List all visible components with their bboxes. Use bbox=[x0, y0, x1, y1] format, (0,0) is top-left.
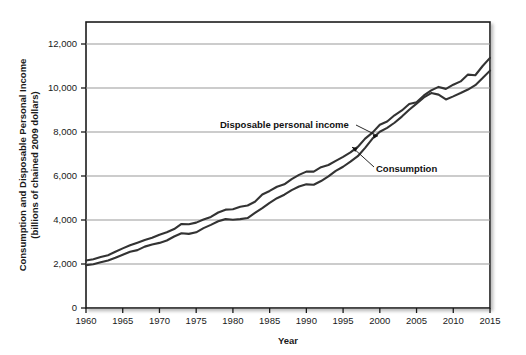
y-axis-title: Consumption and Disposable Personal Inco… bbox=[17, 59, 40, 272]
y-tick-label: 0 bbox=[72, 302, 77, 313]
y-tick-label: 10,000 bbox=[48, 82, 77, 93]
y-tick-label: 8,000 bbox=[53, 126, 77, 137]
line-chart: 02,0004,0006,0008,00010,00012,000 196019… bbox=[0, 0, 526, 355]
chart-figure: 02,0004,0006,0008,00010,00012,000 196019… bbox=[0, 0, 526, 355]
x-tick-label: 1975 bbox=[186, 315, 207, 326]
x-tick-label: 1960 bbox=[75, 315, 96, 326]
series-label-consumption: Consumption bbox=[376, 163, 437, 174]
y-tick-label: 12,000 bbox=[48, 38, 77, 49]
y-tick-label: 6,000 bbox=[53, 170, 77, 181]
y-axis: 02,0004,0006,0008,00010,00012,000 bbox=[48, 38, 86, 313]
series-label-disposable-personal-income: Disposable personal income bbox=[220, 119, 349, 130]
x-tick-label: 1970 bbox=[149, 315, 170, 326]
x-tick-label: 2000 bbox=[369, 315, 390, 326]
y-axis-title-line1: Consumption and Disposable Personal Inco… bbox=[17, 59, 28, 272]
x-axis-title: Year bbox=[278, 335, 298, 346]
x-tick-label: 1985 bbox=[259, 315, 280, 326]
y-axis-title-line2: (billions of chained 2009 dollars) bbox=[29, 91, 40, 238]
x-tick-label: 1995 bbox=[333, 315, 354, 326]
x-tick-label: 2015 bbox=[479, 315, 500, 326]
y-tick-label: 2,000 bbox=[53, 258, 77, 269]
y-tick-label: 4,000 bbox=[53, 214, 77, 225]
x-tick-label: 1980 bbox=[222, 315, 243, 326]
x-tick-label: 1990 bbox=[296, 315, 317, 326]
x-axis: 1960196519701975198019851990199520002005… bbox=[75, 308, 500, 326]
x-tick-label: 1965 bbox=[112, 315, 133, 326]
x-tick-label: 2005 bbox=[406, 315, 427, 326]
x-tick-label: 2010 bbox=[443, 315, 464, 326]
